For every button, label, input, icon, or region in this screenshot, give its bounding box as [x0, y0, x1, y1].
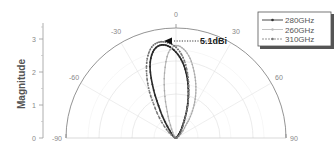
radial-tick-1: 1 [32, 102, 36, 109]
data-marker [162, 115, 164, 117]
data-marker [158, 117, 160, 119]
data-marker [183, 48, 185, 50]
data-marker [181, 47, 183, 49]
data-marker [172, 135, 174, 137]
data-marker [182, 130, 184, 132]
data-marker [146, 66, 148, 68]
data-marker [160, 41, 162, 43]
data-marker [171, 47, 173, 49]
data-marker [187, 121, 189, 123]
data-marker [185, 64, 187, 66]
data-marker [175, 51, 177, 53]
data-marker [163, 78, 165, 80]
polar-chart: 0 1 2 3 Magnitude -90 -60 -30 0 30 60 90 [0, 0, 334, 151]
data-marker [146, 62, 148, 64]
angle-label-m30: -30 [111, 28, 121, 35]
data-marker [173, 45, 175, 47]
data-marker [190, 116, 192, 118]
data-marker [186, 52, 188, 54]
data-marker [187, 72, 189, 74]
data-marker [180, 59, 182, 61]
peak-gain-annotation: 5.1dBi [164, 36, 227, 46]
data-marker [188, 89, 190, 91]
data-marker [152, 51, 154, 53]
polar-grid [66, 24, 286, 138]
data-marker [161, 44, 163, 46]
data-marker [184, 60, 186, 62]
data-marker [152, 44, 154, 46]
data-marker [183, 65, 185, 67]
data-marker [156, 42, 158, 44]
data-marker [149, 71, 151, 73]
data-marker [185, 50, 187, 52]
data-marker [158, 105, 160, 107]
magnitude-axis: 0 1 2 3 Magnitude [16, 23, 43, 142]
data-marker [170, 124, 172, 126]
data-marker [187, 76, 189, 78]
data-marker [150, 57, 152, 59]
data-marker [195, 86, 197, 88]
angle-label-0: 0 [174, 11, 178, 18]
data-marker [179, 51, 181, 53]
series-layer [146, 41, 197, 139]
data-marker [163, 84, 165, 86]
data-marker [194, 101, 196, 103]
data-marker [172, 131, 174, 133]
data-marker [155, 47, 157, 49]
series-line [164, 46, 196, 138]
annotation-label: 5.1dBi [200, 36, 227, 46]
data-marker [188, 93, 190, 95]
legend: 280GHz 260GHz 310GHz [258, 12, 334, 49]
data-marker [167, 115, 169, 117]
angle-label-p90: 90 [290, 135, 298, 142]
data-marker [151, 83, 153, 85]
data-marker [177, 53, 179, 55]
data-marker [163, 44, 165, 46]
data-marker [188, 118, 190, 120]
data-marker [179, 133, 181, 135]
data-marker [181, 53, 183, 55]
data-marker [170, 134, 172, 136]
legend-label: 280GHz [285, 16, 314, 25]
data-marker [188, 85, 190, 87]
data-marker [157, 45, 159, 47]
data-marker [179, 46, 181, 48]
data-marker [146, 79, 148, 81]
data-marker [177, 135, 179, 137]
data-marker [168, 120, 170, 122]
data-marker [183, 121, 185, 123]
data-marker [149, 91, 151, 93]
data-marker [188, 97, 190, 99]
data-marker [154, 107, 156, 109]
data-marker [153, 103, 155, 105]
data-marker [173, 134, 175, 136]
data-marker [194, 98, 196, 100]
data-marker [187, 105, 189, 107]
data-marker [181, 130, 183, 132]
data-marker [158, 41, 160, 43]
data-marker [147, 83, 149, 85]
angle-label-m90: -90 [52, 135, 62, 142]
data-marker [177, 45, 179, 47]
data-marker [195, 95, 197, 97]
data-marker [187, 100, 189, 102]
data-marker [173, 49, 175, 51]
angle-label-p60: 60 [275, 74, 283, 81]
data-marker [164, 121, 166, 123]
data-marker [182, 126, 184, 128]
data-marker [169, 130, 171, 132]
data-marker [149, 49, 151, 51]
angle-label-m60: -60 [69, 74, 79, 81]
data-marker [164, 96, 166, 98]
data-marker [162, 41, 164, 43]
data-marker [195, 92, 197, 94]
data-marker [156, 100, 158, 102]
data-marker [146, 74, 148, 76]
data-marker [188, 81, 190, 83]
data-marker [191, 64, 193, 66]
data-marker [165, 44, 167, 46]
data-marker [153, 89, 155, 91]
data-marker [164, 67, 166, 69]
radial-tick-3: 3 [32, 36, 36, 43]
data-marker [156, 112, 158, 114]
